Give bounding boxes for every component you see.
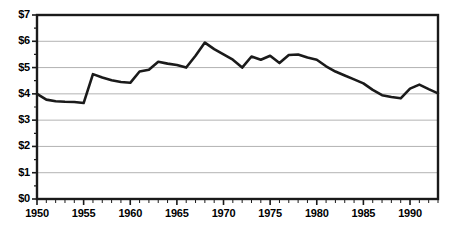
x-axis-tick-label: 1965: [157, 207, 197, 219]
x-axis-tick-label: 1975: [250, 207, 290, 219]
y-axis-tick-label: $7: [0, 8, 30, 20]
x-axis-tick-label: 1980: [297, 207, 337, 219]
x-axis-tick-label: 1955: [64, 207, 104, 219]
y-axis-tick-label: $4: [0, 87, 30, 99]
y-axis-tick-label: $6: [0, 34, 30, 46]
y-axis-tick-label: $0: [0, 192, 30, 204]
x-axis-tick-label: 1950: [17, 207, 57, 219]
x-axis-tick-label: 1960: [110, 207, 150, 219]
x-axis-tick-label: 1985: [343, 207, 383, 219]
x-axis-tick-label: 1990: [390, 207, 430, 219]
y-axis-tick-label: $1: [0, 166, 30, 178]
y-axis-tick-label: $3: [0, 113, 30, 125]
plot-frame: [37, 15, 438, 199]
x-axis-tick-label: 1970: [204, 207, 244, 219]
y-axis-tick-label: $5: [0, 61, 30, 73]
y-axis-tick-label: $2: [0, 139, 30, 151]
chart-canvas: [0, 0, 460, 239]
line-chart: $0$1$2$3$4$5$6$7195019551960196519701975…: [0, 0, 460, 239]
